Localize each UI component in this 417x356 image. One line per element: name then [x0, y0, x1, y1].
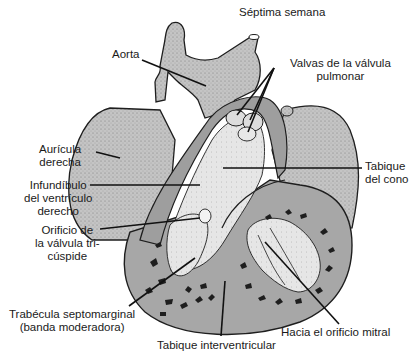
- label-line: Valvas de la válvula: [290, 57, 391, 70]
- label-line: del cono: [365, 173, 408, 186]
- label-interventricular-septum: Tabique interventricular: [157, 339, 276, 352]
- label-line: la válvula tri-: [35, 237, 100, 250]
- label-septomarginal-trabecula: Trabécula septomarginal (banda moderador…: [9, 308, 135, 334]
- label-line: derecha: [39, 156, 81, 169]
- heart-illustration: [0, 0, 417, 356]
- label-line: (banda moderadora): [9, 321, 135, 334]
- label-line: del ventrículo: [24, 192, 92, 205]
- label-pulmonary-valves: Valvas de la válvula pulmonar: [290, 57, 391, 83]
- label-right-atrium: Aurícula derecha: [39, 143, 81, 169]
- label-line: Infundíbulo: [24, 179, 92, 192]
- label-line: pulmonar: [290, 70, 391, 83]
- label-line: derecho: [24, 205, 92, 218]
- label-mitral-orifice: Hacia el orificio mitral: [281, 326, 390, 339]
- label-line: cúspide: [35, 250, 100, 263]
- figure-title: Séptima semana: [239, 6, 325, 19]
- label-aorta: Aorta: [112, 48, 140, 61]
- label-line: Aurícula: [39, 143, 81, 156]
- label-line: Tabique: [365, 160, 408, 173]
- label-tricuspid-orifice: Orificio de la válvula tri- cúspide: [35, 224, 100, 263]
- label-line: Trabécula septomarginal: [9, 308, 135, 321]
- label-infundibulum: Infundíbulo del ventrículo derecho: [24, 179, 92, 218]
- label-line: Orificio de: [35, 224, 100, 237]
- label-conus-septum: Tabique del cono: [365, 160, 408, 186]
